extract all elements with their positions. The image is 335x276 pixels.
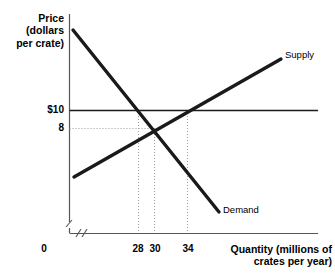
x-tick-label-30: 30 — [143, 243, 167, 255]
x-tick-label-34: 34 — [176, 243, 200, 255]
y-tick-label-10: $10 — [28, 104, 64, 116]
x-axis-title: Quantity (millions of crates per year) — [212, 243, 332, 268]
supply-demand-chart: Price (dollars per crate) Quantity (mill… — [0, 0, 335, 276]
y-tick-label-8: 8 — [28, 122, 64, 134]
demand-curve — [73, 30, 219, 212]
y-axis-title: Price (dollars per crate) — [6, 12, 64, 49]
supply-curve-label: Supply — [285, 49, 314, 60]
demand-curve-label: Demand — [223, 204, 259, 215]
origin-label: 0 — [36, 243, 52, 255]
